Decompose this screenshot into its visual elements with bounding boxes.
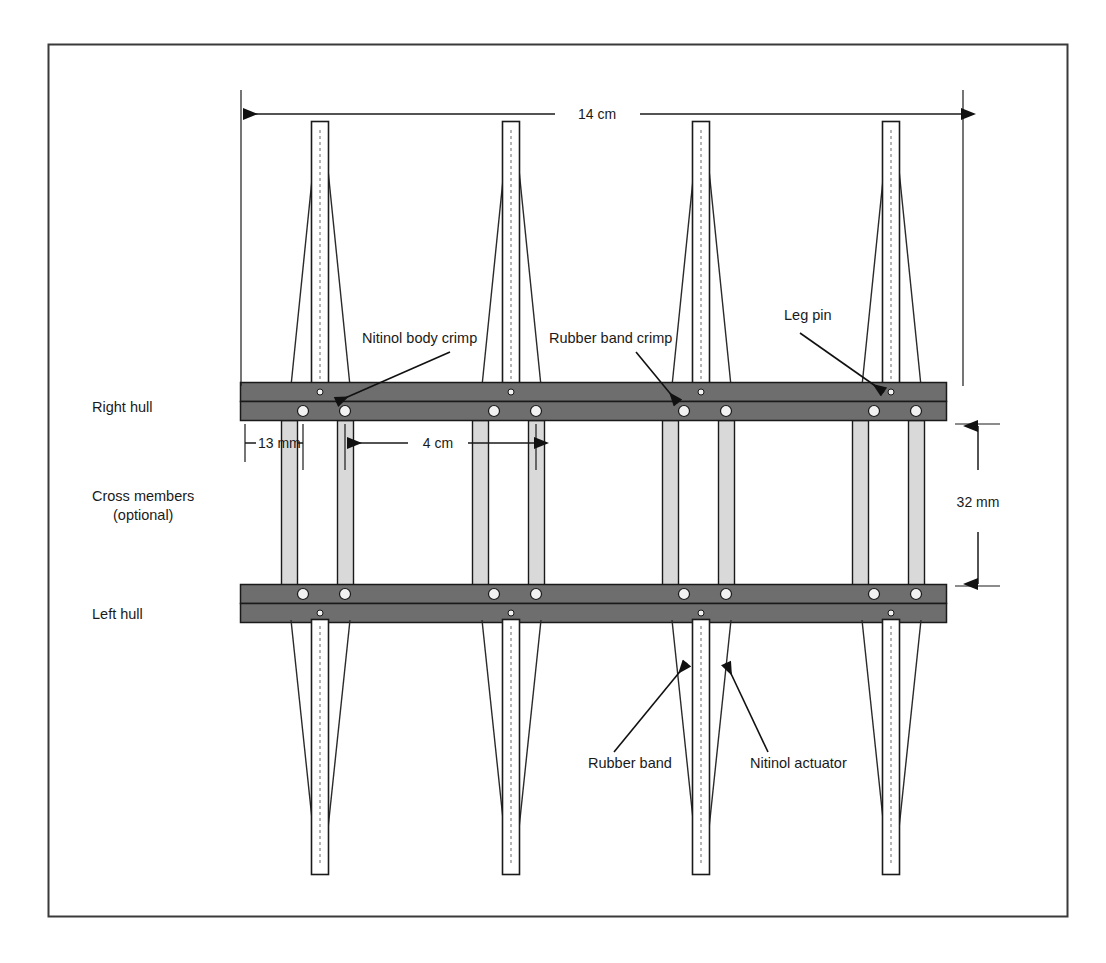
crimp-hole [489, 589, 500, 600]
leg-pin-hole-small [508, 389, 514, 395]
label-leg-pin: Leg pin [784, 307, 832, 323]
label-cross-members-line1: Cross members [92, 488, 194, 504]
label-rubber-band-crimp: Rubber band crimp [549, 330, 672, 346]
label-right-hull: Right hull [92, 399, 152, 415]
leg-pin-hole-small [317, 610, 323, 616]
cross-member [663, 421, 679, 593]
cross-member [473, 421, 489, 593]
label-nitinol-body-crimp: Nitinol body crimp [362, 330, 477, 346]
dimension-label-hull-gap: 32 mm [957, 494, 1000, 510]
label-nitinol-actuator: Nitinol actuator [750, 755, 847, 771]
leg-pin-hole-small [698, 389, 704, 395]
crimp-hole [531, 406, 542, 417]
crimp-hole [298, 406, 309, 417]
crimp-hole [911, 589, 922, 600]
crimp-hole [911, 406, 922, 417]
crimp-hole [721, 589, 732, 600]
leg-pin-hole-small [888, 389, 894, 395]
crimp-hole [531, 589, 542, 600]
dimension-label-leg-spacing: 4 cm [423, 435, 453, 451]
crimp-hole [679, 406, 690, 417]
crimp-hole [340, 406, 351, 417]
crimp-hole [721, 406, 732, 417]
dimension-label-pin-offset: 13 mm [258, 435, 301, 451]
crimp-hole [869, 406, 880, 417]
cross-member [719, 421, 735, 593]
crimp-hole [679, 589, 690, 600]
right-hull [241, 383, 947, 421]
leg-pin-hole-small [888, 610, 894, 616]
leg-pin-hole-small [508, 610, 514, 616]
assembly-diagram: 14 cm 13 mm 4 cm 32 mm Right hull [0, 0, 1106, 963]
crimp-hole [298, 589, 309, 600]
left-hull-lower-band [241, 604, 947, 623]
cross-member [909, 421, 925, 593]
cross-member [853, 421, 869, 593]
figure-canvas: 14 cm 13 mm 4 cm 32 mm Right hull [0, 0, 1106, 963]
label-left-hull: Left hull [92, 606, 143, 622]
crimp-hole [340, 589, 351, 600]
label-rubber-band: Rubber band [588, 755, 672, 771]
right-hull-upper-band [241, 383, 947, 402]
left-hull [241, 585, 947, 623]
dimension-label-overall-width: 14 cm [578, 106, 616, 122]
leg-pin-hole-small [317, 389, 323, 395]
label-cross-members-line2: (optional) [113, 507, 173, 523]
crimp-hole [489, 406, 500, 417]
leg-pin-hole-small [698, 610, 704, 616]
crimp-hole [869, 589, 880, 600]
